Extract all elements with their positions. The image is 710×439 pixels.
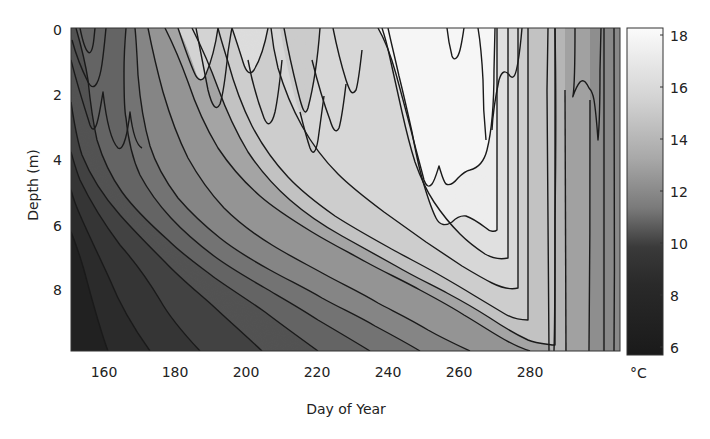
- y-axis: 0 2 4 6 8 Depth (m): [25, 22, 62, 298]
- colorbar-tick-label: 8: [670, 288, 679, 304]
- colorbar-tick-label: 12: [670, 184, 688, 200]
- x-tick-label: 160: [91, 364, 118, 380]
- isotherm-line: [565, 90, 566, 351]
- colorbar-tick-label: 16: [670, 80, 688, 96]
- x-tick-label: 240: [375, 364, 402, 380]
- x-tick-label: 260: [446, 364, 473, 380]
- y-tick-label: 0: [53, 22, 62, 38]
- colorbar-unit-label: °C: [630, 365, 647, 381]
- colorbar-tick-label: 6: [670, 340, 679, 356]
- x-axis: 160 180 200 220 240 260 280 Day of Year: [91, 364, 544, 417]
- contour-chart: 0 2 4 6 8 Depth (m) 160 180 200 220 240 …: [0, 0, 710, 439]
- x-tick-label: 180: [162, 364, 189, 380]
- y-tick-label: 8: [53, 282, 62, 298]
- colorbar-tick-label: 10: [670, 236, 688, 252]
- y-tick-label: 4: [53, 152, 62, 168]
- colorbar-gradient: [627, 28, 663, 355]
- y-tick-label: 2: [53, 87, 62, 103]
- colorbar-tick-label: 18: [670, 28, 688, 44]
- colorbar-tick-label: 14: [670, 132, 688, 148]
- x-axis-label: Day of Year: [306, 401, 386, 417]
- x-tick-label: 220: [304, 364, 331, 380]
- x-tick-label: 280: [517, 364, 544, 380]
- y-tick-label: 6: [53, 218, 62, 234]
- colorbar: 18 16 14 12 10 8 6 °C: [627, 28, 688, 381]
- y-axis-label: Depth (m): [25, 149, 41, 221]
- x-tick-label: 200: [233, 364, 260, 380]
